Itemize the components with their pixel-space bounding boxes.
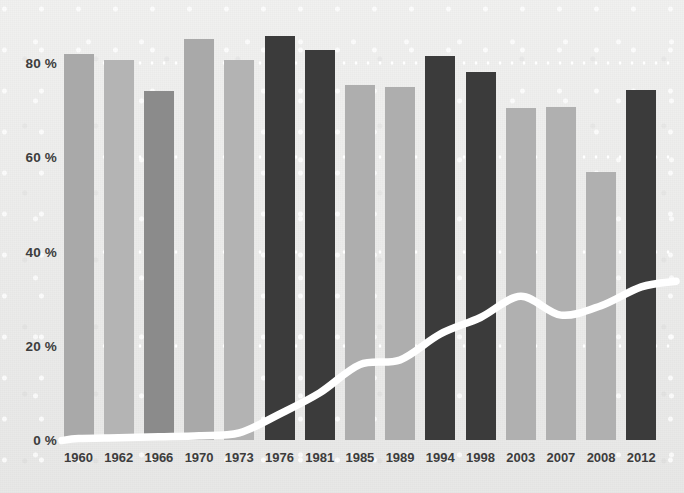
x-axis-tick-label: 1976 (265, 450, 294, 465)
x-axis-tick-label: 1989 (386, 450, 415, 465)
x-axis-tick-label: 1994 (426, 450, 455, 465)
x-axis-tick-label: 1998 (466, 450, 495, 465)
x-axis-tick-label: 1973 (225, 450, 254, 465)
chart-container: 0 %20 %40 %60 %80 % 19601962196619701973… (0, 0, 684, 493)
x-axis-tick-label: 1985 (345, 450, 374, 465)
x-axis-tick-label: 1966 (144, 450, 173, 465)
x-axis-tick-label: 2008 (587, 450, 616, 465)
x-axis-tick-label: 2012 (627, 450, 656, 465)
x-axis-tick-label: 1960 (64, 450, 93, 465)
x-axis-tick-label: 1970 (185, 450, 214, 465)
x-axis-tick-label: 2007 (546, 450, 575, 465)
x-axis-tick-label: 1981 (305, 450, 334, 465)
x-axis: 1960196219661970197319761981198519891994… (0, 0, 684, 493)
x-axis-tick-label: 2003 (506, 450, 535, 465)
x-axis-tick-label: 1962 (104, 450, 133, 465)
